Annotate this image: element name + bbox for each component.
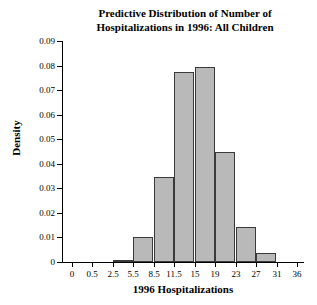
y-tick-label: 0.02 xyxy=(14,209,55,218)
x-tick-mark xyxy=(256,263,257,267)
y-tick-mark xyxy=(57,139,62,140)
x-tick-mark xyxy=(113,263,114,267)
y-tick-label: 0.08 xyxy=(14,62,55,71)
x-tick-mark xyxy=(72,263,73,267)
x-tick-mark xyxy=(174,263,175,267)
histogram-bar xyxy=(215,152,235,262)
x-tick-mark xyxy=(195,263,196,267)
y-tick-label: 0 xyxy=(14,258,55,267)
x-tick-mark xyxy=(92,263,93,267)
chart-title-line-1: Predictive Distribution of Number of xyxy=(60,6,310,20)
histogram-bar xyxy=(133,237,153,262)
x-tick-mark xyxy=(215,263,216,267)
histogram-bar xyxy=(154,177,174,262)
y-tick-label: 0.09 xyxy=(14,37,55,46)
y-tick-label: 0.01 xyxy=(14,233,55,242)
y-tick-mark xyxy=(57,66,62,67)
x-axis-line xyxy=(62,262,304,263)
x-axis-title: 1996 Hospitalizations xyxy=(63,283,303,295)
y-tick-mark xyxy=(57,41,62,42)
chart-title-line-2: Hospitalizations in 1996: All Children xyxy=(60,20,310,34)
y-tick-label: 0.07 xyxy=(14,86,55,95)
histogram-bar xyxy=(195,67,215,262)
y-axis-title: Density xyxy=(10,103,22,173)
plot-area xyxy=(63,41,303,262)
x-tick-mark xyxy=(297,263,298,267)
y-tick-mark xyxy=(57,237,62,238)
histogram-figure: Predictive Distribution of Number of Hos… xyxy=(0,0,317,305)
histogram-bar xyxy=(256,253,276,262)
chart-title: Predictive Distribution of Number of Hos… xyxy=(60,6,310,34)
y-tick-label: 0.03 xyxy=(14,184,55,193)
y-tick-mark xyxy=(57,115,62,116)
x-tick-mark xyxy=(133,263,134,267)
y-tick-mark xyxy=(57,164,62,165)
y-tick-mark xyxy=(57,213,62,214)
x-tick-mark xyxy=(154,263,155,267)
histogram-bar xyxy=(236,227,256,262)
x-tick-mark xyxy=(236,263,237,267)
histogram-bar xyxy=(174,72,194,262)
x-tick-mark xyxy=(277,263,278,267)
y-tick-mark xyxy=(57,188,62,189)
y-tick-mark xyxy=(57,90,62,91)
x-tick-label: 36 xyxy=(277,269,317,279)
